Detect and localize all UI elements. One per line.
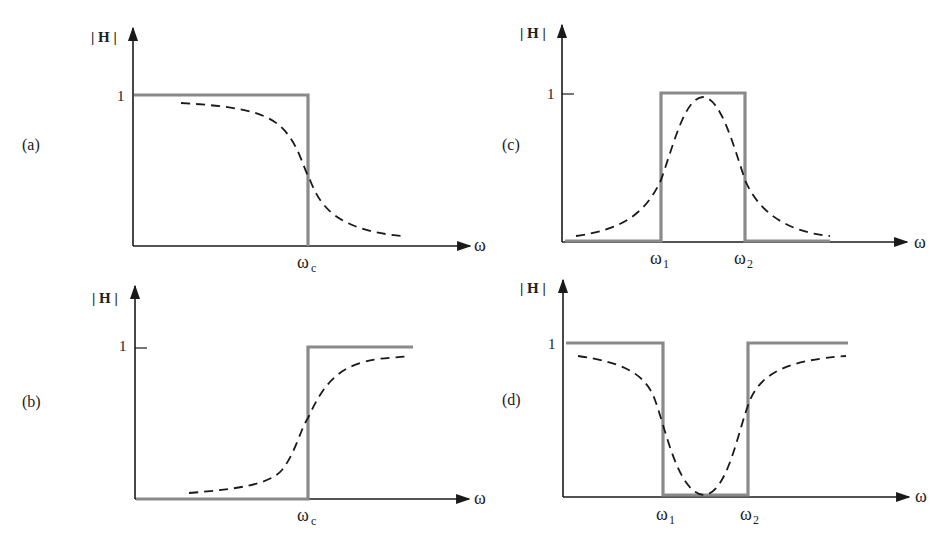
y-axis-label: | H | (91, 29, 117, 45)
filter-responses-figure: (a) | H | ω 1 ω c (b) | H | ω 1 ω c (c) … (0, 0, 951, 540)
x-tick-cutoff: ω c (297, 252, 316, 275)
x-axis-label: ω (474, 488, 486, 508)
y-tick-label: 1 (548, 336, 556, 352)
y-axis-label: | H | (92, 290, 118, 306)
panel-label: (c) (502, 136, 520, 154)
ideal-response (566, 343, 848, 495)
practical-response (181, 103, 402, 236)
x-tick-cutoff: ω c (297, 505, 316, 528)
x-axis-label: ω (914, 232, 926, 252)
ideal-response (136, 347, 413, 499)
x-tick-omega-1: ω 1 (650, 248, 669, 271)
panel-label: (b) (22, 393, 41, 411)
ideal-response (565, 93, 830, 241)
practical-response (578, 356, 846, 495)
svg-text:ω: ω (734, 248, 746, 268)
panel-c-bandpass: (c) | H | ω 1 ω 1 ω 2 (502, 25, 926, 271)
panel-b-highpass: (b) | H | ω 1 ω c (22, 286, 486, 528)
svg-text:c: c (311, 514, 316, 528)
y-axis-label: | H | (520, 280, 546, 296)
panel-d-bandstop: (d) | H | ω 1 ω 1 ω 2 (502, 280, 927, 527)
panel-a-lowpass: (a) | H | ω 1 ω c (22, 28, 486, 275)
svg-text:ω: ω (297, 505, 309, 525)
x-tick-omega-1: ω 1 (656, 504, 675, 527)
y-axis-label: | H | (520, 25, 546, 41)
practical-response (576, 97, 830, 236)
x-tick-omega-2: ω 2 (740, 504, 759, 527)
svg-text:2: 2 (747, 257, 753, 271)
x-axis-label: ω (915, 486, 927, 506)
svg-text:ω: ω (650, 248, 662, 268)
practical-response (189, 356, 410, 493)
svg-text:2: 2 (753, 513, 759, 527)
x-tick-omega-2: ω 2 (734, 248, 753, 271)
svg-text:1: 1 (669, 513, 675, 527)
svg-text:c: c (311, 261, 316, 275)
x-axis-label: ω (474, 235, 486, 255)
svg-text:ω: ω (740, 504, 752, 524)
panel-label: (d) (502, 391, 521, 409)
svg-text:ω: ω (297, 252, 309, 272)
panel-label: (a) (22, 136, 40, 154)
svg-text:ω: ω (656, 504, 668, 524)
y-tick-label: 1 (117, 88, 125, 104)
svg-text:1: 1 (663, 257, 669, 271)
y-tick-label: 1 (547, 86, 555, 102)
ideal-response (134, 95, 308, 246)
y-tick-label: 1 (119, 338, 127, 354)
